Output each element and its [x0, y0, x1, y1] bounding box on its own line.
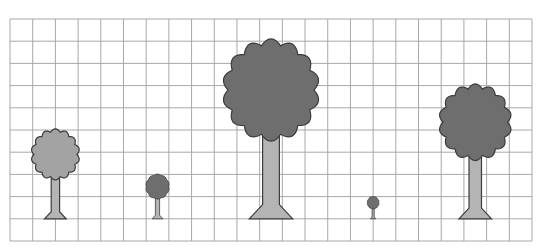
tree-1 — [32, 129, 80, 219]
trees — [32, 39, 511, 219]
tree-crown — [32, 129, 80, 180]
tree-crown — [367, 197, 379, 210]
tree-crown — [146, 174, 169, 199]
tree-crown — [224, 39, 319, 141]
tree-crown — [440, 84, 511, 161]
grid-figure — [0, 0, 540, 250]
grid-canvas — [0, 0, 540, 250]
tree-4 — [367, 197, 379, 219]
tree-5 — [440, 84, 511, 219]
tree-3 — [224, 39, 319, 219]
